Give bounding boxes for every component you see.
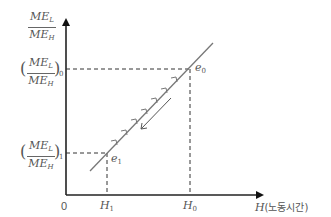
y-tick-1-label: MEL MEH (27, 140, 55, 173)
point-e1-sub: 1 (118, 158, 122, 166)
y-axis-label-num: ME (30, 10, 49, 23)
y-tick-0-num-sub: L (48, 62, 53, 70)
x-axis-label-var: H (255, 201, 265, 214)
y-tick-0-paren-open: ( (20, 59, 26, 78)
origin-label: 0 (61, 200, 67, 212)
point-e0-sub: 0 (202, 67, 206, 75)
x-axis-label-desc: (노동시간) (265, 202, 309, 213)
point-e0-label: e0 (195, 61, 206, 75)
x-tick-h0: H0 (183, 199, 197, 213)
line-direction-ticks (111, 77, 177, 145)
y-axis-label-den: ME (29, 28, 48, 41)
y-tick-1-den: ME (28, 157, 47, 170)
y-tick-0-sub: 0 (59, 70, 63, 78)
y-axis-label-den-sub: H (49, 34, 55, 42)
x-tick-h1-main: H (100, 199, 110, 212)
x-tick-h0-main: H (183, 199, 193, 212)
y-tick-1-num-sub: L (48, 145, 53, 153)
x-tick-h1-sub: 1 (110, 205, 114, 213)
point-e1-label: e1 (111, 152, 122, 166)
x-axis-label: H(노동시간) (255, 199, 308, 214)
y-tick-0-label: MEL MEH (27, 57, 55, 90)
y-tick-1-den-sub: H (48, 163, 54, 171)
x-tick-h1: H1 (100, 199, 114, 213)
y-tick-1-paren-open: ( (20, 142, 26, 161)
y-tick-1-num: ME (29, 139, 48, 152)
x-tick-h0-sub: 0 (193, 205, 197, 213)
y-tick-0-den: ME (28, 74, 47, 87)
y-axis-label-num-sub: L (49, 16, 54, 24)
y-tick-0-num: ME (29, 56, 48, 69)
y-axis-label: MEL MEH (28, 11, 56, 44)
y-tick-0-den-sub: H (48, 80, 54, 88)
y-tick-1-sub: 1 (59, 153, 63, 161)
